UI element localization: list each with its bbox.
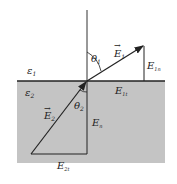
theta1-label: θ1 (91, 53, 101, 65)
field-diagram: ε1 ε2 E1 → θ1 E1n E1t E2 → θ2 En E2t (0, 0, 177, 184)
epsilon1-label: ε1 (27, 65, 36, 77)
e1-vector-mark: → (114, 41, 121, 50)
e1n-label: E1n (146, 60, 161, 72)
medium-2-region (17, 81, 165, 163)
e2-vector-mark: → (44, 104, 51, 113)
